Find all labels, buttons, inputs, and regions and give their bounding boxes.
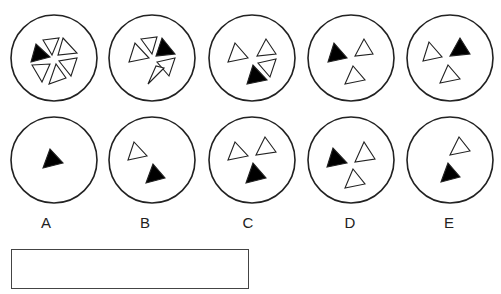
black-triangle-icon xyxy=(146,164,165,183)
circle-frame xyxy=(109,15,195,101)
white-triangle-icon xyxy=(355,142,375,162)
white-triangle-icon xyxy=(345,169,365,188)
white-triangle-icon xyxy=(440,65,460,83)
top-row-cell-c xyxy=(209,15,295,101)
white-triangle-icon xyxy=(228,142,248,160)
white-triangle-icon xyxy=(228,43,248,62)
option-label-c: C xyxy=(238,214,258,231)
circle-frame xyxy=(11,15,97,101)
top-row-cell-d xyxy=(308,15,394,101)
circle-frame xyxy=(407,117,493,203)
black-triangle-icon xyxy=(246,163,266,183)
option-label-d: D xyxy=(340,214,360,231)
white-triangle-icon xyxy=(423,42,442,61)
circle-frame xyxy=(209,117,295,203)
white-triangle-icon xyxy=(148,66,164,84)
bottom-row-cell-a xyxy=(11,117,97,203)
top-row-cell-e xyxy=(407,15,493,101)
white-triangle-icon xyxy=(257,39,276,56)
white-triangle-icon xyxy=(32,64,50,82)
bottom-row-cell-b xyxy=(109,117,195,203)
top-row-cell-b xyxy=(109,15,195,101)
option-label-b: B xyxy=(135,214,155,231)
white-triangle-icon xyxy=(450,137,470,155)
white-triangle-icon xyxy=(355,39,373,56)
bottom-row-cell-d xyxy=(308,117,394,203)
black-triangle-icon xyxy=(328,43,347,62)
bottom-row-cell-e xyxy=(407,117,493,203)
black-triangle-icon xyxy=(156,38,175,56)
circle-frame xyxy=(308,117,394,203)
black-triangle-icon xyxy=(450,38,470,56)
white-triangle-icon xyxy=(58,38,77,55)
black-triangle-icon xyxy=(327,148,347,167)
circle-frame xyxy=(308,15,394,101)
black-triangle-icon xyxy=(43,149,63,168)
white-triangle-icon xyxy=(256,137,276,155)
answer-box[interactable] xyxy=(11,249,249,289)
circle-frame xyxy=(407,15,493,101)
black-triangle-icon xyxy=(441,163,460,182)
bottom-row-cell-c xyxy=(209,117,295,203)
white-triangle-icon xyxy=(345,66,365,84)
circle-frame xyxy=(109,117,195,203)
option-label-e: E xyxy=(439,214,459,231)
top-row-cell-a xyxy=(11,15,97,101)
circle-frame xyxy=(209,15,295,101)
option-label-a: A xyxy=(36,214,56,231)
white-triangle-icon xyxy=(128,142,147,160)
